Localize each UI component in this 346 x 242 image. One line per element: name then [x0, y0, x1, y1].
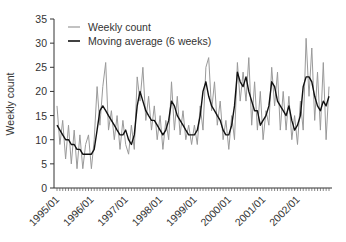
x-tick-label: 2001/01	[232, 193, 267, 228]
y-tick-label: 15	[35, 110, 47, 122]
x-tick-label: 1999/01	[164, 193, 199, 228]
y-tick-label: 5	[41, 158, 47, 170]
x-tick-label: 1998/01	[129, 193, 164, 228]
x-tick-label: 1995/01	[26, 193, 61, 228]
y-axis: 05101520253035	[35, 13, 54, 194]
y-tick-label: 10	[35, 134, 47, 146]
legend-label: Weekly count	[88, 21, 151, 33]
y-tick-label: 30	[35, 37, 47, 49]
y-tick-label: 25	[35, 61, 47, 73]
x-tick-label: 1996/01	[60, 193, 95, 228]
time-series-chart: 05101520253035 1995/011996/011997/011998…	[0, 0, 346, 242]
plot-area	[57, 38, 329, 168]
y-tick-label: 35	[35, 13, 47, 25]
x-axis: 1995/011996/011997/011998/011999/012000/…	[26, 188, 332, 228]
x-tick-label: 2002/01	[267, 193, 302, 228]
y-axis-title: Weekly count	[4, 73, 16, 136]
y-tick-label: 20	[35, 85, 47, 97]
legend: Weekly countMoving average (6 weeks)	[68, 21, 211, 47]
x-tick-label: 2000/01	[198, 193, 233, 228]
y-tick-label: 0	[41, 182, 47, 194]
moving-average-line	[57, 72, 329, 154]
x-tick-label: 1997/01	[95, 193, 130, 228]
legend-label: Moving average (6 weeks)	[88, 35, 211, 47]
weekly-count-line	[57, 38, 329, 168]
